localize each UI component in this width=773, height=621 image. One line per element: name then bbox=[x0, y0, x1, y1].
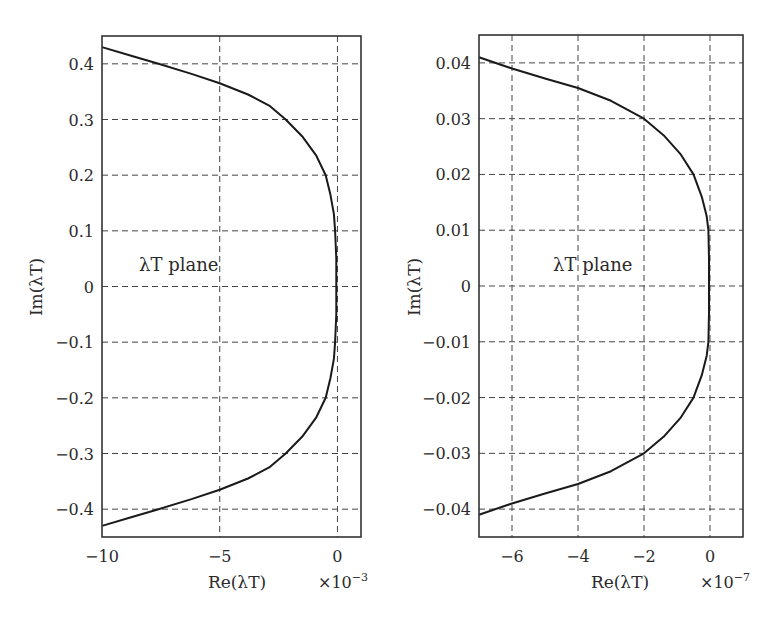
left-plot-y-tick-label: 0.2 bbox=[69, 166, 94, 185]
right-plot-x-multiplier: ×10−7 bbox=[700, 571, 750, 592]
left-plot-y-tick-label: −0.1 bbox=[55, 333, 94, 352]
right-plot-annotation: λT plane bbox=[553, 254, 632, 275]
left-plot-grid bbox=[102, 36, 361, 537]
left-plot-x-tick-label: 0 bbox=[332, 547, 342, 566]
left-plot-y-tick-label: −0.3 bbox=[55, 445, 94, 464]
left-plot-y-tick-label: −0.4 bbox=[55, 500, 94, 519]
right-plot-x-tick-label: 0 bbox=[705, 547, 715, 566]
right-plot-y-tick-label: 0.01 bbox=[435, 221, 471, 240]
left-plot-tick-labels: 0.40.30.20.10−0.1−0.2−0.3−0.4−10−50 bbox=[55, 55, 342, 566]
left-plot-y-axis-title: Im(λT) bbox=[26, 258, 46, 316]
right-plot-y-axis-title: Im(λT) bbox=[404, 258, 424, 316]
right-plot-y-tick-label: −0.01 bbox=[422, 333, 471, 352]
right-plot-x-tick-label: −2 bbox=[632, 547, 656, 566]
figure: 0.40.30.20.10−0.1−0.2−0.3−0.4−10−50 λT p… bbox=[0, 0, 773, 621]
right-plot-y-tick-label: 0.02 bbox=[435, 165, 471, 184]
left-plot: 0.40.30.20.10−0.1−0.2−0.3−0.4−10−50 λT p… bbox=[26, 36, 368, 592]
right-plot-y-tick-label: 0.03 bbox=[435, 110, 471, 129]
right-plot-x-axis-title: Re(λT) bbox=[591, 572, 649, 592]
right-plot-tick-labels: 0.040.030.020.010−0.01−0.02−0.03−0.04−6−… bbox=[422, 54, 715, 566]
right-plot-x-tick-label: −6 bbox=[500, 547, 524, 566]
left-plot-y-tick-label: 0.1 bbox=[69, 222, 94, 241]
left-plot-x-tick-label: −5 bbox=[208, 547, 232, 566]
left-plot-x-tick-label: −10 bbox=[85, 547, 119, 566]
left-plot-y-tick-label: 0 bbox=[84, 278, 94, 297]
right-plot: 0.040.030.020.010−0.01−0.02−0.03−0.04−6−… bbox=[404, 35, 750, 592]
left-plot-y-tick-label: 0.3 bbox=[69, 111, 94, 130]
left-plot-y-tick-label: −0.2 bbox=[55, 389, 94, 408]
right-plot-y-tick-label: 0 bbox=[461, 277, 471, 296]
left-plot-x-multiplier: ×10−3 bbox=[318, 571, 368, 592]
left-plot-y-tick-label: 0.4 bbox=[69, 55, 94, 74]
right-plot-grid bbox=[479, 35, 743, 537]
left-plot-x-axis-title: Re(λT) bbox=[208, 572, 266, 592]
right-plot-y-tick-label: −0.02 bbox=[422, 389, 471, 408]
right-plot-x-tick-label: −4 bbox=[566, 547, 590, 566]
right-plot-y-tick-label: −0.04 bbox=[422, 500, 471, 519]
right-plot-y-tick-label: 0.04 bbox=[435, 54, 471, 73]
right-plot-y-tick-label: −0.03 bbox=[422, 444, 471, 463]
left-plot-annotation: λT plane bbox=[139, 254, 218, 275]
